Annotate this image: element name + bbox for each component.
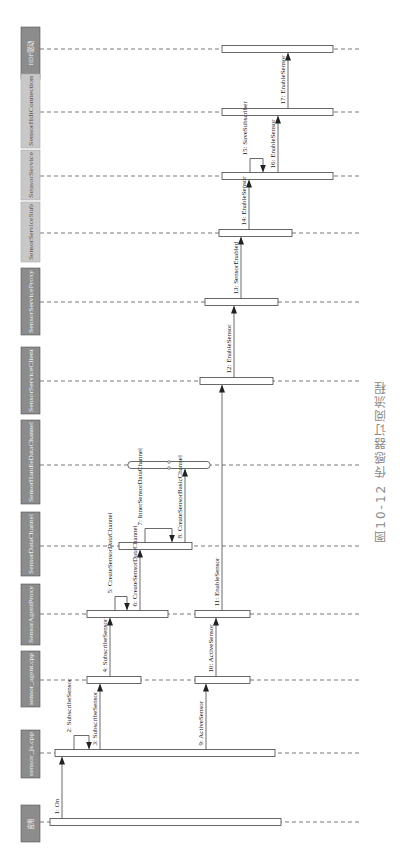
participant-hdf: HDF驱动	[21, 27, 40, 79]
message-6: 6: CreateSensorDataChannel	[131, 525, 140, 610]
message-14: 14: EnableSensor	[240, 176, 249, 230]
participant-label: SensorService	[27, 152, 35, 198]
message-label: 6: CreateSensorDataChannel	[131, 525, 139, 606]
message-3: 3: SubscribeSensor	[91, 685, 100, 750]
message-16: 16: EnableSensor	[269, 117, 278, 173]
participant-proxy: SensorServiceProxy	[21, 268, 40, 335]
message-17: 17: EnableSensor	[279, 54, 288, 109]
message-4: 4: SubscribeSensor	[101, 618, 110, 677]
message-label: 13: SensorEnabled	[232, 241, 240, 294]
message-label: 10: ActiveSensor	[207, 624, 215, 673]
message-label: 2: SubscribeSensor	[65, 678, 73, 733]
message-13: 13: SensorEnabled	[232, 238, 241, 299]
activation-bar-agent	[87, 677, 141, 684]
messages: 1: On2: SubscribeSensor3: SubscribeSenso…	[53, 54, 288, 819]
message-label: 12: EnableSensor	[225, 324, 233, 374]
activation-bar-stub	[219, 230, 292, 237]
participant-agent: sensor_agent.cpp	[21, 651, 40, 707]
message-label: 1: On	[53, 798, 61, 814]
message-8: 8: CreateSensorBasicChannel	[176, 455, 185, 542]
message-label: 11: EnableSensor	[213, 557, 221, 607]
participant-hdc: SensorHandleDataChannel	[21, 420, 40, 504]
message-label: 5: CreateSensorDataChannel	[106, 512, 114, 593]
participant-stub: SensorServiceStub	[21, 202, 40, 262]
message-label: 3: SubscribeSensor	[91, 691, 99, 746]
participant-label: SensorServiceStub	[27, 203, 35, 260]
message-12: 12: EnableSensor	[225, 307, 234, 378]
participant-label: SensorServiceClient	[27, 349, 35, 412]
message-10: 10: ActiveSensor	[207, 619, 216, 677]
activation-bar-dc	[119, 543, 192, 550]
message-5: 5: CreateSensorDataChannel	[106, 512, 127, 610]
participant-label: SensorDataChannel	[27, 514, 35, 574]
participant-dc: SensorDataChannel	[21, 512, 40, 576]
message-label: 7: InnerSensorDataChannel	[136, 448, 144, 526]
message-label: 15: SaveSubscriber	[241, 101, 249, 156]
message-9: 9: ActiveSensor	[197, 685, 206, 750]
participant-js: sensor_js.cpp	[21, 730, 40, 778]
activation-bar-client	[200, 378, 273, 385]
participant-boxes: HDF驱动SensorHdiConnectionSensorServiceSen…	[21, 27, 40, 842]
message-11: 11: EnableSensor	[213, 386, 222, 611]
message-label: 9: ActiveSensor	[197, 700, 205, 745]
participant-ap: SensorAgentProxy	[21, 584, 40, 645]
activation-bar-app	[50, 819, 281, 826]
participant-label: SensorServiceProxy	[27, 269, 35, 333]
message-2: 2: SubscribeSensor	[65, 678, 89, 750]
participant-label: SensorAgentProxy	[27, 585, 35, 643]
activation-bar-ap	[87, 611, 168, 618]
participant-client: SensorServiceClient	[21, 347, 40, 414]
participant-label: SensorHdiConnection	[27, 75, 35, 146]
message-label: 16: EnableSensor	[269, 119, 277, 169]
message-label: 4: SubscribeSensor	[101, 618, 109, 673]
message-1: 1: On	[53, 758, 62, 819]
participant-label: sensor_js.cpp	[27, 731, 35, 776]
activation-bar-proxy	[205, 299, 278, 306]
participant-hdi: SensorHdiConnection	[21, 74, 40, 148]
participant-label: sensor_agent.cpp	[27, 652, 35, 705]
participant-app: 应用	[21, 805, 40, 842]
activation-bar-ap	[195, 611, 250, 618]
message-label: 8: CreateSensorBasicChannel	[176, 455, 184, 538]
message-label: 14: EnableSensor	[240, 176, 248, 226]
activation-bar-svc	[222, 173, 333, 180]
figure-caption: 图10-12 传感器订阅流程	[372, 380, 388, 543]
participant-label: 应用	[26, 819, 35, 829]
activation-bar-js	[55, 750, 275, 757]
participant-label: HDF驱动	[26, 41, 35, 66]
participant-label: SensorHandleDataChannel	[27, 422, 35, 502]
activation-bar-hdf	[222, 46, 333, 53]
participant-svc: SensorService	[21, 150, 40, 200]
activation-bar-hdi	[222, 109, 333, 116]
sequence-diagram: HDF驱动SensorHdiConnectionSensorServiceSen…	[0, 0, 403, 863]
activation-bar-agent	[195, 677, 250, 684]
message-label: 17: EnableSensor	[279, 55, 287, 105]
